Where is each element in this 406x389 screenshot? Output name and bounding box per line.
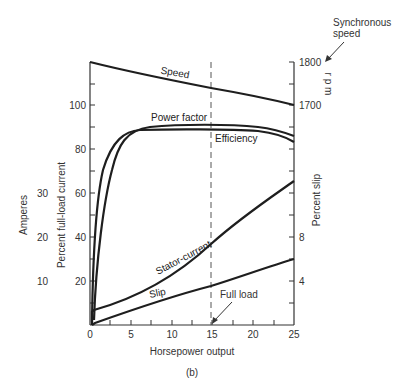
x-tick-5: 5 [128, 329, 134, 340]
full-load-arrow [214, 302, 232, 321]
x-tick-25: 25 [288, 329, 300, 340]
stator-current-label: Stator-current [154, 238, 213, 277]
efficiency-curve [92, 129, 294, 322]
amp-tick-30: 30 [37, 188, 49, 199]
amp-tick-10: 10 [37, 276, 49, 287]
rpm-tick-labels: 1700 1800 [299, 57, 322, 111]
x-tick-15: 15 [206, 329, 218, 340]
slip-label: Slip [148, 286, 167, 300]
synchronous-speed-label-line1: Synchronous [333, 17, 391, 28]
x-axis-title: Horsepower output [150, 346, 235, 357]
y-axis-title-percent: Percent full-load current [56, 162, 67, 268]
slip-tick-8: 8 [299, 232, 305, 243]
curves [90, 62, 294, 325]
y-axis-title-slip: Percent slip [311, 173, 322, 226]
axes [90, 62, 294, 325]
x-ticks [110, 320, 274, 325]
y-axis-title-rpm: r p m [323, 73, 334, 96]
x-tick-10: 10 [166, 329, 178, 340]
slip-tick-labels: 4 8 [299, 232, 305, 287]
slip-curve [92, 259, 294, 325]
x-tick-20: 20 [247, 329, 259, 340]
y-axis-title-amperes: Amperes [18, 195, 29, 235]
synchronous-speed-label-line2: speed [333, 28, 360, 39]
pct-tick-20: 20 [75, 276, 87, 287]
pct-tick-40: 40 [75, 232, 87, 243]
power-factor-label: Power factor [151, 112, 208, 123]
motor-performance-chart: 0 5 10 15 20 25 20 40 60 80 100 10 20 30… [0, 0, 406, 389]
amp-tick-20: 20 [37, 232, 49, 243]
rpm-tick-1700: 1700 [299, 100, 322, 111]
synchronous-speed-arrow [328, 42, 344, 59]
pct-tick-100: 100 [69, 100, 86, 111]
x-tick-0: 0 [87, 329, 93, 340]
pct-tick-60: 60 [75, 188, 87, 199]
figure-caption: (b) [186, 367, 198, 378]
efficiency-label: Efficiency [215, 133, 258, 144]
slip-tick-4: 4 [299, 276, 305, 287]
pct-tick-80: 80 [75, 144, 87, 155]
x-tick-labels: 0 5 10 15 20 25 [87, 329, 300, 340]
pct-tick-labels: 20 40 60 80 100 [69, 100, 86, 287]
rpm-tick-1800: 1800 [299, 57, 322, 68]
amp-tick-labels: 10 20 30 [37, 188, 49, 287]
speed-curve [90, 62, 294, 105]
full-load-label: Full load [220, 289, 258, 300]
